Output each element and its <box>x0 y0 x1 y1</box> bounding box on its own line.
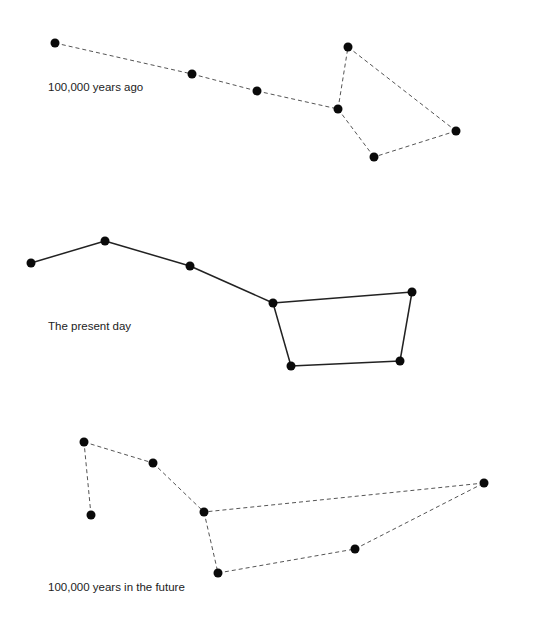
constellation-line <box>153 463 204 512</box>
constellation-future <box>80 438 489 578</box>
constellation-line <box>257 91 338 109</box>
constellation-line <box>55 43 192 74</box>
constellation-present <box>27 237 417 371</box>
star-dot <box>370 153 379 162</box>
star-dot <box>51 39 60 48</box>
star-dot <box>149 459 158 468</box>
star-dot <box>80 438 89 447</box>
star-dot <box>408 288 417 297</box>
star-dot <box>287 362 296 371</box>
constellation-line <box>400 292 412 361</box>
star-dot <box>334 105 343 114</box>
star-dot <box>253 87 262 96</box>
star-dot <box>396 357 405 366</box>
constellation-line <box>374 131 456 157</box>
constellation-line <box>338 109 374 157</box>
star-dot <box>200 508 209 517</box>
constellation-line <box>273 303 291 366</box>
constellation-line <box>291 361 400 366</box>
constellation-line <box>218 549 355 573</box>
constellation-line <box>204 483 484 512</box>
constellation-line <box>192 74 257 91</box>
constellation-line <box>31 241 105 263</box>
star-dot <box>344 43 353 52</box>
constellation-line <box>105 241 190 266</box>
star-dot <box>214 569 223 578</box>
star-dot <box>87 511 96 520</box>
constellation-line <box>355 483 484 549</box>
constellation-line <box>204 512 218 573</box>
star-dot <box>188 70 197 79</box>
constellation-line <box>84 442 153 463</box>
panel-label-future: 100,000 years in the future <box>48 581 185 593</box>
star-dot <box>452 127 461 136</box>
constellation-past <box>51 39 461 162</box>
panel-label-past: 100,000 years ago <box>48 81 143 93</box>
star-dot <box>27 259 36 268</box>
constellation-diagram <box>0 0 543 620</box>
constellation-line <box>273 292 412 303</box>
star-dot <box>101 237 110 246</box>
star-dot <box>269 299 278 308</box>
constellation-line <box>84 442 91 515</box>
constellation-line <box>348 47 456 131</box>
star-dot <box>186 262 195 271</box>
constellation-line <box>338 47 348 109</box>
panel-label-present: The present day <box>48 320 131 332</box>
star-dot <box>351 545 360 554</box>
star-dot <box>480 479 489 488</box>
constellation-line <box>190 266 273 303</box>
